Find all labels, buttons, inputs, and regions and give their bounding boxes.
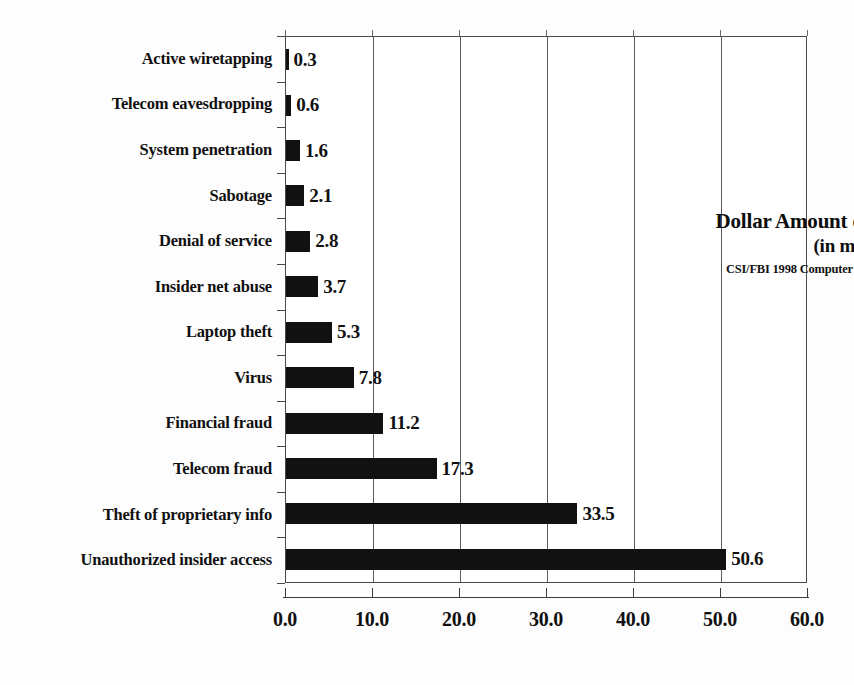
category-label-cell: Financial fraud: [0, 401, 278, 447]
bar-chart-figure: Active wiretappingTelecom eavesdroppingS…: [0, 0, 854, 685]
category-label: Virus: [234, 368, 278, 388]
value-tick: [633, 588, 634, 598]
category-label: Telecom eavesdropping: [112, 94, 278, 114]
bar[interactable]: [286, 549, 726, 570]
category-label: System penetration: [139, 140, 278, 160]
bar-row[interactable]: 7.8: [286, 355, 806, 400]
bar-value-label: 33.5: [582, 503, 614, 525]
bar-value-label: 11.2: [388, 412, 419, 434]
bar-value-label: 5.3: [337, 321, 360, 343]
value-tick: [720, 588, 721, 598]
category-tick: [277, 173, 285, 174]
category-tick: [277, 537, 285, 538]
value-tick-label: 20.0: [442, 608, 476, 631]
category-label-cell: Laptop theft: [0, 309, 278, 355]
plot-area: 0.30.61.62.12.83.75.37.811.217.333.550.6…: [285, 36, 807, 583]
category-label-cell: System penetration: [0, 127, 278, 173]
category-tick: [277, 446, 285, 447]
category-tick: [277, 264, 285, 265]
category-label: Insider net abuse: [155, 277, 278, 297]
bar[interactable]: [286, 322, 332, 343]
category-tick: [277, 36, 285, 37]
bar-rows: 0.30.61.62.12.83.75.37.811.217.333.550.6: [286, 37, 806, 582]
category-axis-labels: Active wiretappingTelecom eavesdroppingS…: [0, 36, 278, 583]
category-tick: [277, 82, 285, 83]
bar-row[interactable]: 50.6: [286, 537, 806, 582]
value-tick-label: 30.0: [529, 608, 563, 631]
top-axis-tick: [807, 30, 808, 36]
value-tick-label: 40.0: [616, 608, 650, 631]
bar[interactable]: [286, 276, 318, 297]
bar[interactable]: [286, 49, 289, 70]
category-label-cell: Virus: [0, 355, 278, 401]
category-label-cell: Denial of service: [0, 218, 278, 264]
category-label-cell: Insider net abuse: [0, 264, 278, 310]
bar-row[interactable]: 3.7: [286, 264, 806, 309]
bar[interactable]: [286, 503, 577, 524]
value-tick: [459, 588, 460, 598]
bar-row[interactable]: 33.5: [286, 491, 806, 536]
value-tick: [372, 588, 373, 598]
bar-value-label: 3.7: [323, 276, 346, 298]
value-tick: [285, 588, 286, 598]
bar[interactable]: [286, 458, 437, 479]
bar-row[interactable]: 5.3: [286, 310, 806, 355]
category-label-cell: Telecom eavesdropping: [0, 82, 278, 128]
category-label-cell: Unauthorized insider access: [0, 537, 278, 583]
bar[interactable]: [286, 413, 383, 434]
value-tick: [546, 588, 547, 598]
category-label-cell: Active wiretapping: [0, 36, 278, 82]
category-tick: [277, 355, 285, 356]
category-label: Denial of service: [159, 231, 278, 251]
bar[interactable]: [286, 185, 304, 206]
bar-value-label: 50.6: [731, 548, 763, 570]
category-tick: [277, 127, 285, 128]
category-tick: [277, 583, 285, 584]
bar[interactable]: [286, 367, 354, 388]
category-label: Laptop theft: [186, 322, 278, 342]
bar[interactable]: [286, 231, 310, 252]
bar-row[interactable]: 1.6: [286, 128, 806, 173]
bar-row[interactable]: 2.1: [286, 173, 806, 218]
category-label-cell: Sabotage: [0, 173, 278, 219]
value-tick-label: 60.0: [790, 608, 824, 631]
category-label: Unauthorized insider access: [81, 550, 278, 570]
bar-row[interactable]: 0.6: [286, 82, 806, 127]
value-tick-label: 10.0: [355, 608, 389, 631]
value-tick-label: 50.0: [703, 608, 737, 631]
category-axis-ticks: [277, 36, 285, 583]
bar-value-label: 2.1: [309, 185, 332, 207]
value-tick-label: 0.0: [273, 608, 297, 631]
category-label: Active wiretapping: [142, 49, 278, 69]
bar-value-label: 7.8: [359, 367, 382, 389]
bar[interactable]: [286, 95, 291, 116]
bar-row[interactable]: 0.3: [286, 37, 806, 82]
category-label: Sabotage: [209, 186, 278, 206]
category-tick: [277, 401, 285, 402]
bar-value-label: 0.3: [294, 49, 317, 71]
category-tick: [277, 492, 285, 493]
value-tick: [807, 588, 808, 598]
bar-row[interactable]: 2.8: [286, 219, 806, 264]
category-tick: [277, 218, 285, 219]
category-label: Theft of proprietary info: [103, 505, 278, 525]
bar-row[interactable]: 17.3: [286, 446, 806, 491]
category-tick: [277, 310, 285, 311]
bar[interactable]: [286, 140, 300, 161]
bar-value-label: 0.6: [296, 94, 319, 116]
bar-value-label: 2.8: [315, 230, 338, 252]
bar-value-label: 1.6: [305, 140, 328, 162]
bar-value-label: 17.3: [442, 458, 474, 480]
category-label-cell: Telecom fraud: [0, 446, 278, 492]
category-label-cell: Theft of proprietary info: [0, 492, 278, 538]
category-label: Telecom fraud: [173, 459, 278, 479]
bar-row[interactable]: 11.2: [286, 400, 806, 445]
category-label: Financial fraud: [165, 413, 278, 433]
